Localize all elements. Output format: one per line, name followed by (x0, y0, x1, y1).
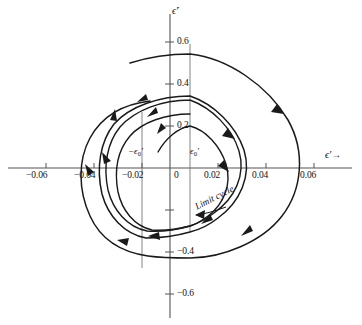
x-tick-label-0: 0 (174, 171, 179, 181)
x-tick-label-0.04: 0.04 (252, 171, 268, 181)
y-tick-label--0.4: −0.4 (177, 247, 194, 257)
x-tick-label--0.02: −0.02 (122, 171, 143, 181)
y-axis-label: ϵ̇' (172, 6, 178, 16)
x-axis-label: ϵ'→ (325, 150, 341, 160)
x-axis-arrow-icon: → (331, 149, 341, 160)
y-tick-label-0.2: 0.2 (177, 121, 189, 131)
plot-canvas (0, 0, 362, 325)
y-tick-label--0.6: −0.6 (177, 289, 194, 299)
y-tick-label-0.4: 0.4 (177, 79, 189, 89)
x-tick-label--0.04: −0.04 (74, 171, 95, 181)
x-tick-label-0.06: 0.06 (300, 171, 316, 181)
label-neg-eps0-prime: ' (141, 146, 143, 156)
x-tick-label--0.06: −0.06 (26, 171, 47, 181)
phase-plane-figure: −0.06 −0.04 −0.02 0 0.02 0.04 0.06 0.6 0… (0, 0, 362, 325)
label-neg-eps0: −ϵ0' (128, 147, 143, 157)
label-neg-eps0-base: −ϵ (128, 146, 138, 156)
label-pos-eps0-prime: ' (197, 146, 199, 156)
x-tick-label-0.02: 0.02 (204, 171, 220, 181)
axis-lines (8, 14, 352, 318)
y-tick-label-0.6: 0.6 (177, 37, 189, 47)
label-pos-eps0: ϵ0' (190, 147, 199, 157)
y-axis-label-text: ϵ̇' (172, 5, 178, 16)
